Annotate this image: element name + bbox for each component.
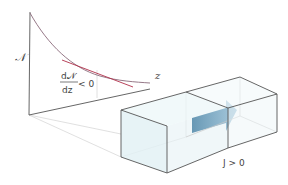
y-axis-label: 𝒩 <box>15 51 29 64</box>
gradient-relation: < 0 <box>78 79 94 89</box>
gradient-denominator: dz <box>62 85 73 95</box>
z-axis-label: z <box>154 70 161 81</box>
perspective-guides <box>29 70 121 157</box>
diagram-canvas: 𝒩 z d𝒩 dz < 0 J > 0 <box>0 0 288 185</box>
y-axis <box>29 12 30 115</box>
concentration-curve <box>30 13 150 83</box>
diffusion-diagram: 𝒩 z d𝒩 dz < 0 J > 0 <box>0 0 288 185</box>
axes <box>29 12 150 115</box>
flux-label: J > 0 <box>222 158 245 168</box>
volume-element-left <box>121 92 228 173</box>
gradient-numerator: d𝒩 <box>61 71 77 81</box>
